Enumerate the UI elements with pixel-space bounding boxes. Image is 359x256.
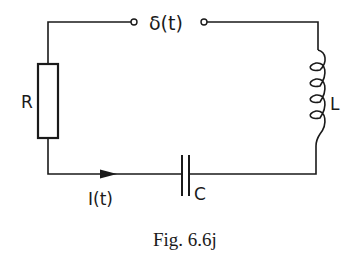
resistor-label: R xyxy=(21,92,33,112)
current-arrow-icon xyxy=(100,170,117,179)
bottom-left-wire xyxy=(48,138,182,174)
figure-caption: Fig. 6.6j xyxy=(153,229,217,250)
source-label: δ(t) xyxy=(149,12,183,34)
circuit-diagram: δ(t) R I(t) C L Fig. 6.6j xyxy=(0,0,359,256)
bottom-right-wire xyxy=(189,146,316,174)
inductor-label: L xyxy=(330,94,340,114)
capacitor-label: C xyxy=(194,184,206,204)
top-right-wire xyxy=(207,22,318,50)
current-label: I(t) xyxy=(88,189,113,209)
top-left-wire xyxy=(48,22,131,64)
resistor xyxy=(38,64,58,138)
source-terminal-left xyxy=(131,19,137,25)
source-terminal-right xyxy=(201,19,207,25)
inductor xyxy=(310,50,325,146)
